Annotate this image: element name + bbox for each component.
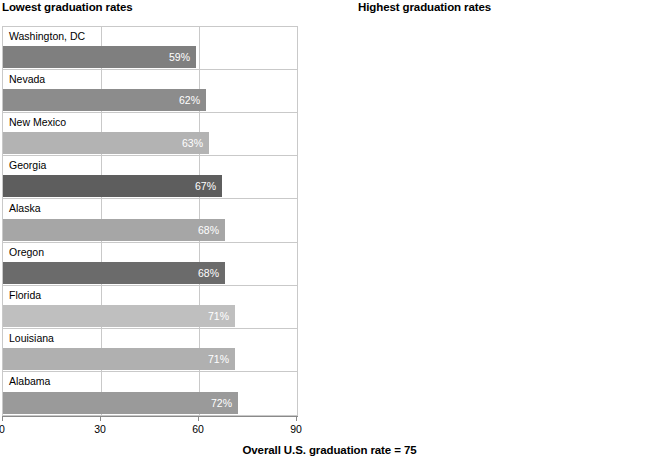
bar-category-label: New Mexico: [9, 115, 66, 129]
bar-value-label: 59%: [169, 46, 190, 68]
axis-tick-label-30: 30: [94, 423, 106, 436]
axis-tick-label-60: 60: [192, 423, 204, 436]
bar-row: New Mexico63%: [3, 113, 297, 156]
axis-tick-60: [198, 416, 199, 421]
bar: 67%: [3, 175, 222, 197]
bar-category-label: Louisiana: [9, 331, 54, 345]
bar-row: Florida71%: [3, 286, 297, 329]
bar: 68%: [3, 262, 225, 284]
bar-row: Alabama72%: [3, 372, 297, 415]
axis-tick-30: [100, 416, 101, 421]
bar-value-label: 63%: [182, 132, 203, 154]
bar: 59%: [3, 46, 196, 68]
bar-category-label: Washington, DC: [9, 29, 85, 43]
bar-value-label: 71%: [208, 348, 229, 370]
panel-lowest-graduation-rates: Lowest graduation rates Washington, DC59…: [0, 0, 330, 440]
bar: 71%: [3, 348, 235, 370]
axis-tick-90: [296, 416, 297, 421]
bar-category-label: Oregon: [9, 245, 44, 259]
bar: 71%: [3, 305, 235, 327]
bar: 62%: [3, 89, 206, 111]
bar: 68%: [3, 219, 225, 241]
axis-tick-0: [2, 416, 3, 421]
panel-title-lowest: Lowest graduation rates: [2, 0, 133, 14]
bar-value-label: 71%: [208, 305, 229, 327]
bar-category-label: Alaska: [9, 201, 41, 215]
bar-rows-lowest: Washington, DC59%Nevada62%New Mexico63%G…: [3, 27, 297, 415]
bar-category-label: Florida: [9, 288, 41, 302]
bar-value-label: 67%: [195, 175, 216, 197]
bar-row: Louisiana71%: [3, 329, 297, 372]
bar-row: Georgia67%: [3, 156, 297, 199]
bar: 63%: [3, 132, 209, 154]
bar-category-label: Alabama: [9, 374, 50, 388]
bar-value-label: 72%: [211, 392, 232, 414]
panel-title-highest: Highest graduation rates: [358, 0, 491, 14]
chart-page: Lowest graduation rates Washington, DC59…: [0, 0, 659, 463]
overall-rate-note: Overall U.S. graduation rate = 75: [0, 443, 659, 457]
bar-row: Washington, DC59%: [3, 27, 297, 70]
x-axis-lowest: 0306090: [2, 416, 298, 440]
bar-row: Alaska68%: [3, 199, 297, 242]
bar-row: Oregon68%: [3, 243, 297, 286]
axis-tick-label-90: 90: [290, 423, 302, 436]
plot-area-lowest: Washington, DC59%Nevada62%New Mexico63%G…: [2, 26, 298, 416]
bar-row: Nevada62%: [3, 70, 297, 113]
gridline-90: [297, 27, 298, 415]
axis-tick-label-0: 0: [0, 423, 5, 436]
axis-line: [2, 416, 298, 417]
bar-category-label: Nevada: [9, 72, 45, 86]
bar-value-label: 68%: [198, 219, 219, 241]
bar-value-label: 62%: [179, 89, 200, 111]
panel-highest-graduation-rates: Highest graduation rates Iowa88%Wisconsi…: [330, 0, 659, 440]
bar-category-label: Georgia: [9, 158, 46, 172]
bar-value-label: 68%: [198, 262, 219, 284]
bar: 72%: [3, 392, 238, 414]
